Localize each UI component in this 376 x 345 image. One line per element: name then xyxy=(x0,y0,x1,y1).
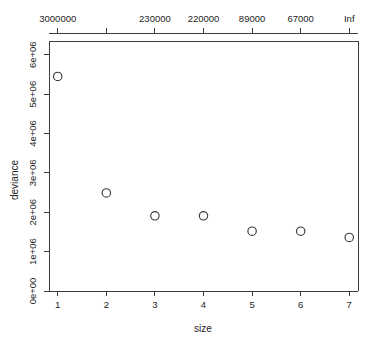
plot-background xyxy=(0,0,376,345)
y-axis-tick-label: 0e+00 xyxy=(27,278,38,305)
y-axis-tick-label: 1e+06 xyxy=(27,238,38,265)
x-axis-tick-label: 2 xyxy=(104,299,109,310)
x-axis-tick-label: 5 xyxy=(249,299,254,310)
y-axis-tick-label: 2e+06 xyxy=(27,199,38,226)
top-axis-tick-label: 3000000 xyxy=(39,13,76,24)
top-axis-tick-label: Inf xyxy=(344,13,355,24)
x-axis-tick-label: 4 xyxy=(201,299,206,310)
top-axis-tick-label: 220000 xyxy=(188,13,220,24)
x-axis-tick-label: 3 xyxy=(152,299,157,310)
y-axis-tick-label: 3e+06 xyxy=(27,160,38,187)
top-axis-tick-label: 89000 xyxy=(239,13,265,24)
x-axis-tick-label: 1 xyxy=(55,299,60,310)
x-axis-tick-label: 7 xyxy=(347,299,352,310)
y-axis-tick-labels: 0e+001e+062e+063e+064e+065e+066e+06 xyxy=(27,41,38,304)
y-axis-tick-label: 4e+06 xyxy=(27,120,38,147)
y-axis-title: deviance xyxy=(9,160,20,200)
x-axis-title: size xyxy=(194,323,212,334)
y-axis-tick-label: 5e+06 xyxy=(27,81,38,108)
x-axis-tick-label: 6 xyxy=(298,299,303,310)
top-axis-tick-label: 67000 xyxy=(287,13,313,24)
top-axis-tick-label: 230000 xyxy=(139,13,171,24)
plot-canvas: 30000002300002200008900067000Inf 0e+001e… xyxy=(0,0,376,345)
y-axis-tick-label: 6e+06 xyxy=(27,41,38,68)
deviance-vs-size-scatter-plot: 30000002300002200008900067000Inf 0e+001e… xyxy=(0,0,376,345)
